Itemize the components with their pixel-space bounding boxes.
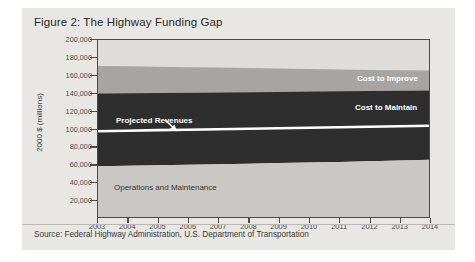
source-divider xyxy=(22,224,455,225)
y-tick-label: 200,000 xyxy=(66,35,92,44)
band-label-cost-to-maintain: Cost to Maintain xyxy=(355,103,417,112)
y-tick-mark xyxy=(90,182,97,183)
y-tick-label: 120,000 xyxy=(66,106,92,115)
y-tick-mark xyxy=(90,93,97,94)
source-note: Source: Federal Highway Administration, … xyxy=(34,230,309,239)
y-tick-label: 180,000 xyxy=(66,52,92,61)
y-tick-mark xyxy=(90,164,97,165)
band-label-operations-and-maintenance: Operations and Maintenance xyxy=(114,183,217,192)
y-tick-label: 140,000 xyxy=(66,88,92,97)
y-tick-label: 100,000 xyxy=(66,124,92,133)
y-tick-label: 60,000 xyxy=(70,160,92,169)
figure-panel: Figure 2: The Highway Funding Gap 2000 $… xyxy=(22,8,455,250)
y-tick-label: 80,000 xyxy=(70,142,92,151)
y-tick-mark xyxy=(90,129,97,130)
y-tick-label: 160,000 xyxy=(66,70,92,79)
y-tick-mark xyxy=(90,75,97,76)
y-tick-mark xyxy=(90,111,97,112)
y-tick-mark xyxy=(90,39,97,40)
y-tick-label: 20,000 xyxy=(70,196,92,205)
y-tick-mark xyxy=(90,57,97,58)
y-tick-mark xyxy=(90,146,97,147)
band-label-cost-to-improve: Cost to Improve xyxy=(357,74,418,83)
band-label-projected-revenues: Projected Revenues xyxy=(116,116,192,125)
y-tick-mark xyxy=(90,200,97,201)
y-axis-title: 2000 $ (millions) xyxy=(35,78,44,168)
y-tick-label: 40,000 xyxy=(70,178,92,187)
